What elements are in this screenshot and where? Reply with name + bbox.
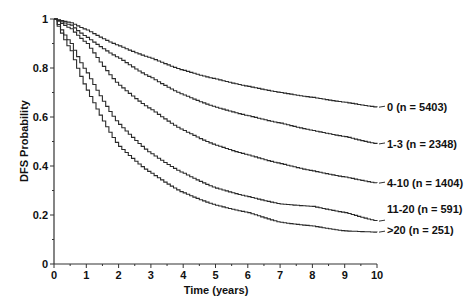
y-axis-label: DFS Probability bbox=[18, 99, 30, 182]
y-tick-label: 0.4 bbox=[33, 160, 49, 172]
x-tick-label: 0 bbox=[51, 269, 57, 281]
x-tick-label: 3 bbox=[148, 269, 154, 281]
inline-legend: 0 (n = 5403)1-3 (n = 2348)4-10 (n = 1404… bbox=[379, 101, 463, 236]
survival-curves bbox=[54, 19, 377, 232]
legend-leader-line bbox=[379, 231, 385, 232]
legend-label: 4-10 (n = 1404) bbox=[387, 177, 463, 189]
legend-leader-line bbox=[379, 220, 385, 221]
legend-leader-line bbox=[379, 182, 385, 183]
survival-curve-4 bbox=[54, 19, 377, 232]
legend-label: 0 (n = 5403) bbox=[387, 101, 448, 113]
x-tick-label: 1 bbox=[83, 269, 89, 281]
legend-label: >20 (n = 251) bbox=[387, 224, 454, 236]
legend-label: 11-20 (n = 591) bbox=[387, 203, 463, 215]
x-tick-label: 10 bbox=[371, 269, 383, 281]
x-tick-label: 6 bbox=[245, 269, 251, 281]
y-tick-label: 0.6 bbox=[33, 111, 48, 123]
legend-leader-line bbox=[379, 106, 385, 107]
y-axis-ticks: 00.20.40.60.81 bbox=[33, 13, 54, 270]
legend-label: 1-3 (n = 2348) bbox=[387, 138, 457, 150]
survival-chart: DFS Probability Time (years) 00.20.40.60… bbox=[0, 0, 475, 307]
x-tick-label: 2 bbox=[116, 269, 122, 281]
y-tick-label: 0 bbox=[42, 258, 48, 270]
x-tick-label: 9 bbox=[342, 269, 348, 281]
x-tick-label: 8 bbox=[309, 269, 315, 281]
y-tick-label: 0.2 bbox=[33, 209, 48, 221]
x-axis-ticks: 012345678910 bbox=[51, 264, 383, 281]
x-tick-label: 7 bbox=[277, 269, 283, 281]
x-tick-label: 5 bbox=[212, 269, 218, 281]
y-axis-title: DFS Probability bbox=[18, 99, 30, 182]
x-tick-label: 4 bbox=[180, 269, 187, 281]
x-axis-label: Time (years) bbox=[184, 284, 249, 296]
y-tick-label: 0.8 bbox=[33, 62, 48, 74]
y-tick-label: 1 bbox=[42, 13, 48, 25]
legend-leader-line bbox=[379, 143, 385, 144]
